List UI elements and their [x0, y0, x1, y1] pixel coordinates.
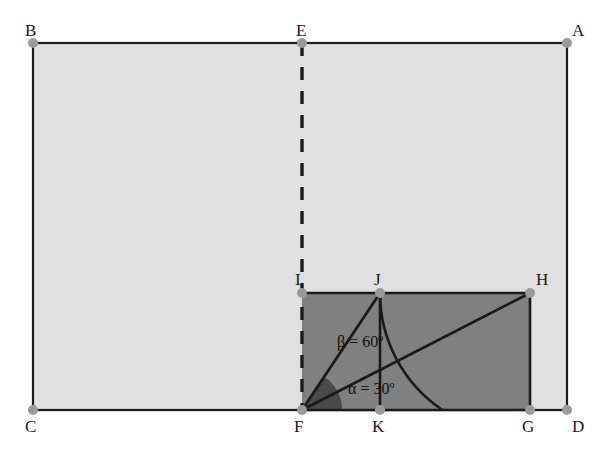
point-label-k: K	[372, 418, 384, 435]
point-label-f: F	[294, 418, 303, 435]
figure-canvas	[0, 0, 609, 451]
point-label-h: H	[536, 271, 548, 288]
point-label-c: C	[25, 418, 36, 435]
vertex-dot-H	[525, 288, 535, 298]
point-label-i: I	[295, 271, 301, 288]
geometry-figure: B E A C F K G D I J H β = 60º α = 30º	[0, 0, 609, 451]
vertex-dot-K	[375, 405, 385, 415]
point-label-d: D	[572, 418, 584, 435]
point-label-b: B	[25, 22, 36, 39]
vertex-dot-J	[375, 288, 385, 298]
point-label-g: G	[522, 418, 534, 435]
angle-label-beta: β = 60º	[337, 334, 383, 350]
angle-label-alpha: α = 30º	[348, 381, 394, 397]
point-label-a: A	[572, 22, 584, 39]
point-label-j: J	[374, 271, 381, 288]
vertex-dot-F	[297, 405, 307, 415]
point-label-e: E	[296, 22, 306, 39]
vertex-dot-C	[28, 405, 38, 415]
vertex-dot-G	[525, 405, 535, 415]
vertex-dot-A	[562, 38, 572, 48]
vertex-dot-D	[562, 405, 572, 415]
vertex-dot-I	[297, 288, 307, 298]
